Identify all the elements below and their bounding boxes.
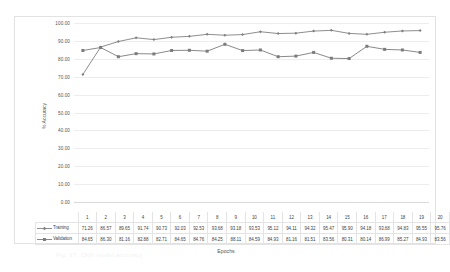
table-header-cell: 16 xyxy=(356,212,375,223)
legend-label: Validation xyxy=(53,236,72,241)
table-row: Training71.2686.5789.6591.7490.7392.0392… xyxy=(36,223,450,234)
table-header-cell: 4 xyxy=(134,212,153,223)
table-header-cell: 10 xyxy=(245,212,264,223)
table-value-cell: 95.76 xyxy=(431,223,450,234)
table-header-cell: 6 xyxy=(171,212,190,223)
table-value-cell: 94.32 xyxy=(301,223,320,234)
table-value-cell: 95.55 xyxy=(412,223,431,234)
table-value-cell: 84.76 xyxy=(189,234,208,245)
table-value-cell: 81.16 xyxy=(115,234,134,245)
table-value-cell: 80.31 xyxy=(338,234,357,245)
series-line-validation xyxy=(83,44,420,58)
table-value-cell: 84.25 xyxy=(208,234,227,245)
data-table: 1234567891011121314151617181920 Training… xyxy=(35,212,450,245)
legend-marker-icon xyxy=(37,237,52,242)
table-header-cell: 7 xyxy=(189,212,208,223)
table-header-cell: 5 xyxy=(152,212,171,223)
data-point-validation xyxy=(294,55,297,58)
table-header-cell: 18 xyxy=(394,212,413,223)
table-value-cell: 93.68 xyxy=(208,223,227,234)
table-value-cell: 83.56 xyxy=(431,234,450,245)
y-tick-label: 20.00 xyxy=(58,164,70,169)
data-point-validation xyxy=(117,55,120,58)
table-value-cell: 85.27 xyxy=(394,234,413,245)
table-value-cell: 86.30 xyxy=(97,234,116,245)
table-header-cell: 8 xyxy=(208,212,227,223)
plot-area xyxy=(74,23,429,202)
y-tick-label: 70.00 xyxy=(58,74,70,79)
data-point-training xyxy=(206,33,209,36)
table-value-cell: 81.51 xyxy=(301,234,320,245)
table-header-cell: 9 xyxy=(227,212,246,223)
table-header-cell: 1 xyxy=(78,212,97,223)
legend-label: Training xyxy=(53,225,69,230)
data-point-validation xyxy=(365,45,368,48)
data-point-validation xyxy=(188,49,191,52)
data-point-validation xyxy=(312,51,315,54)
table-value-cell: 91.74 xyxy=(134,223,153,234)
y-tick-label: 60.00 xyxy=(58,92,70,97)
data-point-validation xyxy=(401,48,404,51)
data-point-validation xyxy=(383,48,386,51)
table-value-cell: 84.65 xyxy=(171,234,190,245)
table-value-cell: 92.53 xyxy=(189,223,208,234)
data-point-validation xyxy=(99,46,102,49)
data-point-validation xyxy=(135,52,138,55)
table-value-cell: 92.03 xyxy=(171,223,190,234)
table-value-cell: 84.65 xyxy=(78,234,97,245)
figure-caption: Fig. 17. CNN model accuracy xyxy=(56,252,142,258)
table-value-cell: 84.93 xyxy=(264,234,283,245)
data-point-validation xyxy=(348,57,351,60)
series-lines xyxy=(74,23,429,202)
table-value-cell: 94.11 xyxy=(282,223,301,234)
y-tick-label: 90.00 xyxy=(58,38,70,43)
table-value-cell: 71.26 xyxy=(78,223,97,234)
data-point-validation xyxy=(170,49,173,52)
data-point-training xyxy=(188,35,191,38)
table-header-cell: 17 xyxy=(375,212,394,223)
table-value-cell: 82.71 xyxy=(152,234,171,245)
data-point-training xyxy=(135,36,138,39)
data-point-training xyxy=(383,31,386,34)
data-point-validation xyxy=(277,55,280,58)
data-point-training xyxy=(348,32,351,35)
data-point-validation xyxy=(81,49,84,52)
table-value-cell: 95.47 xyxy=(319,223,338,234)
y-tick-label: 30.00 xyxy=(58,146,70,151)
y-tick-label: 50.00 xyxy=(58,110,70,115)
table-value-cell: 93.68 xyxy=(375,223,394,234)
table-value-cell: 88.11 xyxy=(227,234,246,245)
data-point-training xyxy=(223,34,226,37)
table-header-cell: 20 xyxy=(431,212,450,223)
legend-entry-training: Training xyxy=(36,223,79,234)
data-point-training xyxy=(170,36,173,39)
table-value-cell: 95.90 xyxy=(338,223,357,234)
y-tick-label: 0.00 xyxy=(61,200,70,205)
table-value-cell: 86.99 xyxy=(375,234,394,245)
data-point-validation xyxy=(330,57,333,60)
data-point-training xyxy=(419,29,422,32)
table-corner-cell xyxy=(36,212,79,223)
y-tick-label: 40.00 xyxy=(58,128,70,133)
table-value-cell: 89.65 xyxy=(115,223,134,234)
data-point-validation xyxy=(259,48,262,51)
data-point-training xyxy=(152,38,155,41)
table-header-cell: 3 xyxy=(115,212,134,223)
table-value-cell: 82.88 xyxy=(134,234,153,245)
data-point-training xyxy=(312,30,315,33)
table-value-cell: 94.83 xyxy=(394,223,413,234)
data-point-validation xyxy=(223,43,226,46)
table-header-cell: 2 xyxy=(97,212,116,223)
data-point-validation xyxy=(152,52,155,55)
table-header-cell: 13 xyxy=(301,212,320,223)
legend-marker-icon xyxy=(37,226,52,231)
y-tick-label: 80.00 xyxy=(58,56,70,61)
table-row-categories: 1234567891011121314151617181920 xyxy=(36,212,450,223)
table-value-cell: 86.57 xyxy=(97,223,116,234)
data-point-training xyxy=(117,40,120,43)
table-value-cell: 95.12 xyxy=(264,223,283,234)
table-value-cell: 93.53 xyxy=(245,223,264,234)
data-point-training xyxy=(241,33,244,36)
table-value-cell: 94.18 xyxy=(356,223,375,234)
